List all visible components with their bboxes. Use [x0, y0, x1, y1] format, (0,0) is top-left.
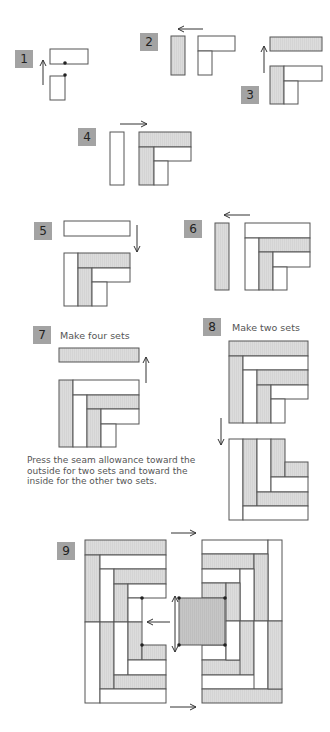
step-7-caption: Make four sets	[60, 330, 130, 341]
strip-gray-horizontal	[257, 492, 308, 506]
strip-horizontal	[73, 380, 139, 395]
strip-horizontal	[154, 147, 191, 161]
strip-gray-vertical	[271, 439, 285, 477]
strip-gray-horizontal	[259, 238, 310, 252]
strip-gray-horizontal	[142, 645, 166, 660]
align-dot-icon	[140, 643, 144, 647]
strip-gray-vertical	[229, 356, 243, 423]
strip-vertical	[101, 424, 116, 447]
strip-vertical	[284, 81, 298, 104]
strip-horizontal	[92, 268, 130, 282]
strip-gray-horizontal	[114, 569, 166, 584]
strip-gray-vertical	[215, 223, 229, 290]
step-badge-5: 5	[34, 222, 52, 240]
strip-horizontal	[245, 223, 310, 238]
pressing-note: Press the seam allowance toward the outs…	[27, 455, 205, 487]
step-6-diagram	[215, 215, 310, 290]
strip-horizontal	[202, 540, 268, 554]
strip-vertical	[92, 282, 107, 306]
strip-horizontal	[271, 477, 308, 492]
strip-gray-horizontal	[87, 395, 139, 409]
strip-vertical	[198, 51, 212, 75]
strip-gray-vertical	[128, 622, 142, 660]
strip-gray-horizontal	[285, 462, 308, 477]
strip-gray-horizontal	[139, 132, 191, 147]
strip-gray-vertical	[254, 554, 268, 621]
center-square	[179, 598, 225, 645]
step-badge-9: 9	[57, 542, 75, 560]
strip-vertical	[154, 161, 168, 185]
align-dot-icon	[63, 73, 67, 77]
strip-horizontal	[273, 252, 310, 267]
strip-vertical	[257, 439, 271, 492]
strip-vertical	[50, 76, 65, 100]
step-8-caption: Make two sets	[232, 322, 300, 333]
step-badge-4: 4	[78, 128, 96, 146]
strip-vertical	[73, 395, 87, 447]
strip-vertical	[110, 132, 124, 185]
step-badge-7: 7	[33, 326, 51, 344]
strip-gray-vertical	[87, 409, 101, 447]
strip-gray-vertical	[171, 36, 185, 75]
strip-gray-horizontal	[202, 583, 226, 598]
strip-vertical	[114, 622, 128, 675]
strip-gray-vertical	[85, 555, 100, 622]
strip-horizontal	[64, 221, 130, 236]
strip-vertical	[271, 399, 285, 423]
align-dot-icon	[177, 643, 181, 647]
strip-gray-vertical	[268, 621, 282, 689]
strip-vertical	[245, 238, 259, 290]
strip-vertical	[273, 267, 287, 290]
strip-gray-vertical	[240, 621, 254, 675]
step-badge-2: 2	[140, 33, 158, 51]
strip-vertical	[254, 621, 268, 689]
strip-horizontal	[271, 385, 308, 399]
step-8-diagram-top	[229, 341, 308, 423]
strip-gray-vertical	[226, 583, 240, 621]
strip-vertical	[243, 370, 257, 423]
strip-vertical	[240, 569, 254, 621]
strip-gray-horizontal	[59, 348, 139, 362]
strip-gray-vertical	[114, 584, 128, 622]
strip-horizontal	[243, 506, 308, 520]
strip-gray-vertical	[243, 439, 257, 506]
strip-gray-horizontal	[202, 554, 254, 569]
strip-horizontal	[128, 584, 166, 598]
step-1-diagram	[43, 49, 88, 100]
strip-gray-horizontal	[202, 689, 282, 703]
strip-vertical	[85, 622, 100, 703]
strip-gray-vertical	[100, 622, 114, 689]
strip-horizontal	[198, 36, 235, 51]
step-badge-6: 6	[184, 220, 202, 238]
step-5-diagram	[64, 221, 137, 306]
align-dot-icon	[63, 61, 67, 65]
strip-gray-horizontal	[229, 341, 308, 356]
step-2-diagram	[171, 29, 235, 75]
step-badge-3: 3	[241, 86, 259, 104]
strip-gray-vertical	[259, 252, 273, 290]
strip-gray-vertical	[257, 385, 271, 423]
assembly-diagram	[0, 0, 330, 732]
strip-gray-horizontal	[78, 253, 130, 268]
strip-horizontal	[243, 356, 308, 370]
strip-vertical	[100, 569, 114, 622]
strip-gray-horizontal	[257, 370, 308, 385]
strip-horizontal	[100, 689, 166, 703]
step-8-diagram-bottom	[229, 439, 308, 520]
step-4-diagram	[110, 124, 191, 185]
strip-vertical	[226, 621, 240, 660]
strip-gray-vertical	[78, 268, 92, 306]
step-badge-8: 8	[203, 318, 221, 336]
strip-gray-vertical	[270, 66, 284, 104]
strip-vertical	[268, 540, 282, 621]
strip-vertical	[128, 598, 142, 622]
strip-vertical	[229, 439, 243, 520]
align-dot-icon	[177, 596, 181, 600]
align-dot-icon	[223, 596, 227, 600]
strip-horizontal	[284, 66, 322, 81]
strip-horizontal	[101, 409, 139, 424]
strip-horizontal	[128, 660, 166, 675]
step-3-diagram	[264, 37, 322, 104]
strip-horizontal	[50, 49, 88, 64]
strip-gray-vertical	[139, 147, 154, 185]
